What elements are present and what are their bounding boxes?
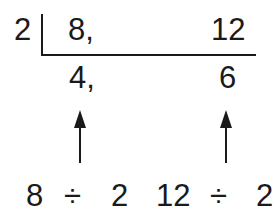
divide-sign-1: ÷ bbox=[64, 180, 81, 211]
up-arrow-icon bbox=[220, 110, 232, 163]
explanation-divisor-2: 2 bbox=[256, 180, 273, 211]
divide-sign-2: ÷ bbox=[210, 180, 227, 211]
explanation-dividend-2: 12 bbox=[156, 180, 190, 211]
explanation-divisor-1: 2 bbox=[111, 180, 128, 211]
up-arrow-icon bbox=[74, 110, 86, 163]
explanation-dividend-1: 8 bbox=[26, 180, 43, 211]
